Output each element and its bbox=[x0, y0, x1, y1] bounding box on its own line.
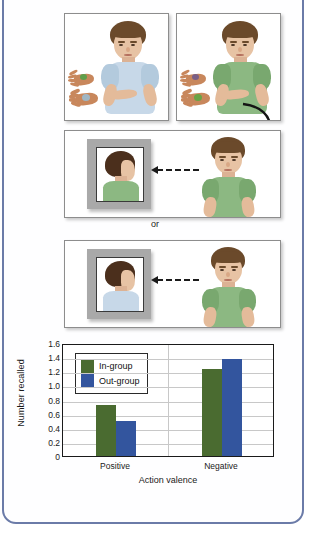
arrow-head-icon bbox=[151, 166, 158, 174]
token-green bbox=[194, 94, 202, 101]
hair-fringe bbox=[212, 251, 244, 263]
nose bbox=[226, 272, 230, 277]
brow-left bbox=[219, 266, 226, 268]
legend-swatch-ingroup bbox=[81, 360, 94, 373]
x-tick-label: Positive bbox=[100, 461, 130, 471]
y-tick-label: 0.8 bbox=[32, 396, 60, 406]
legend-swatch-outgroup bbox=[81, 374, 94, 387]
y-tick-label: 1.0 bbox=[32, 381, 60, 391]
y-tick-label: 1.2 bbox=[32, 367, 60, 377]
x-tick-label: Negative bbox=[204, 461, 238, 471]
curved-arrow-icon bbox=[237, 102, 281, 121]
brow-right bbox=[130, 41, 137, 43]
panel-ingroup-actor bbox=[64, 13, 169, 121]
legend-label-ingroup: In-group bbox=[99, 361, 133, 371]
arrow-head-icon bbox=[151, 276, 158, 284]
bar-out-group-positive bbox=[116, 421, 136, 456]
token-purple bbox=[192, 74, 199, 80]
mirror-image-outgroup bbox=[96, 257, 144, 312]
x-axis-title: Action valence bbox=[62, 475, 274, 485]
bar-chart: Number recalled 1.61.41.21.00.80.60.40.2… bbox=[0, 336, 300, 501]
bar-in-group-positive bbox=[96, 405, 116, 456]
category-divider bbox=[168, 345, 169, 456]
bar-out-group-negative bbox=[222, 359, 242, 456]
torso-shirt-green bbox=[103, 181, 139, 202]
y-tick-label: 0.6 bbox=[32, 410, 60, 420]
token-green bbox=[80, 74, 87, 80]
gaze-arrow bbox=[157, 169, 199, 171]
legend-label-outgroup: Out-group bbox=[99, 376, 140, 386]
brow-right bbox=[231, 156, 238, 158]
panel-mirror-outgroup bbox=[64, 240, 281, 328]
gaze-arrow bbox=[157, 279, 199, 281]
panel-outgroup-actor bbox=[176, 13, 281, 121]
hair-fringe bbox=[111, 25, 145, 38]
mouth bbox=[224, 279, 232, 281]
brow-left bbox=[118, 41, 125, 43]
legend-item-ingroup: In-group bbox=[81, 360, 140, 373]
brow-right bbox=[242, 41, 249, 43]
y-tick-label: 1.6 bbox=[32, 339, 60, 349]
or-separator: or bbox=[0, 219, 310, 229]
legend-item-outgroup: Out-group bbox=[81, 374, 140, 387]
nose bbox=[226, 162, 230, 167]
y-tick-label: 0.4 bbox=[32, 424, 60, 434]
brow-left bbox=[230, 41, 237, 43]
hair-fringe bbox=[223, 25, 257, 38]
mirror-frame bbox=[87, 249, 151, 319]
nose bbox=[126, 47, 130, 52]
plot-area: In-group Out-group bbox=[62, 344, 274, 457]
y-tick-label: 1.4 bbox=[32, 353, 60, 363]
panel-mirror-ingroup bbox=[64, 130, 281, 218]
y-tick-label: 0 bbox=[32, 452, 60, 462]
mouth bbox=[236, 54, 244, 56]
torso-shirt-blue bbox=[103, 291, 139, 312]
hair-fringe bbox=[212, 141, 244, 153]
token-grey bbox=[82, 94, 90, 101]
bar-in-group-negative bbox=[202, 369, 222, 456]
mirror-frame bbox=[87, 139, 151, 209]
mirror-image-ingroup bbox=[96, 147, 144, 202]
brow-right bbox=[231, 266, 238, 268]
figure-content: or bbox=[0, 0, 310, 537]
y-axis-title: Number recalled bbox=[16, 350, 26, 436]
y-axis-ticks: 1.61.41.21.00.80.60.40.20 bbox=[28, 344, 60, 457]
mouth bbox=[224, 169, 232, 171]
brow-left bbox=[219, 156, 226, 158]
mouth bbox=[124, 54, 132, 56]
y-tick-label: 0.2 bbox=[32, 438, 60, 448]
nose bbox=[238, 47, 242, 52]
